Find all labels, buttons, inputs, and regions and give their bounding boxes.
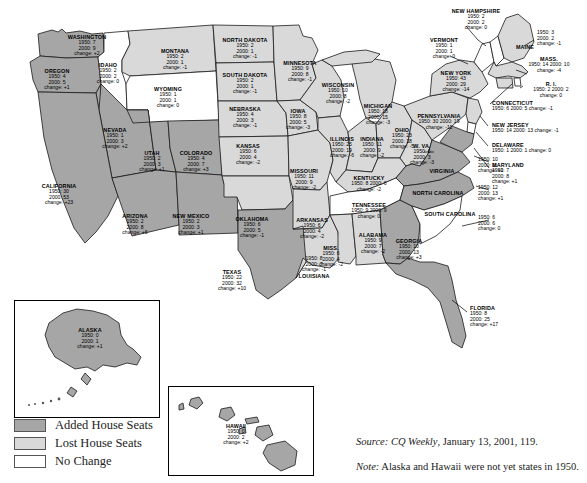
legend-swatch-nochange (14, 455, 46, 468)
alaska-aleutian-2 (67, 387, 77, 397)
statehood-note: Note: Alaska and Hawaii were not yet sta… (356, 461, 579, 472)
state-shape-hawaii[interactable] (179, 397, 297, 471)
state-shape-northdakota[interactable] (213, 25, 274, 63)
state-shape-alaska[interactable] (45, 309, 141, 371)
alaska-aleutian-1 (81, 373, 91, 385)
source-citation-rest: , January 13, 2001, 119. (437, 436, 538, 447)
state-shape-kansas[interactable] (219, 136, 289, 176)
alaska-shape-svg (15, 301, 159, 417)
alaska-inset: ALASKA 1950: 0 2000: 1 change: +1 (14, 300, 160, 418)
note-text: Alaska and Hawaii were not yet states in… (379, 461, 578, 472)
state-shape-rhodeisland[interactable] (514, 78, 521, 86)
us-house-seats-map: WASHINGTON 1950: 7 2000: 9 change: +2 OR… (0, 0, 587, 483)
legend-row-nochange: No Change (14, 452, 153, 470)
legend-label-added: Added House Seats (55, 418, 153, 433)
map-legend: Added House Seats Lost House Seats No Ch… (14, 416, 153, 470)
state-shape-montana[interactable] (122, 25, 216, 76)
source-label: Source: (356, 436, 388, 447)
state-shape-massachusetts[interactable] (488, 62, 528, 78)
legend-label-nochange: No Change (55, 454, 112, 469)
legend-row-lost: Lost House Seats (14, 434, 153, 452)
state-shape-newjersey[interactable] (466, 98, 482, 124)
state-shape-maine[interactable] (498, 14, 534, 62)
source-publication: CQ Weekly (391, 436, 438, 447)
legend-row-added: Added House Seats (14, 416, 153, 434)
hawaii-inset: HAWAII 1950: 0 2000: 2 change: +2 (168, 386, 314, 476)
legend-swatch-lost (14, 437, 46, 450)
note-label: Note: (356, 461, 379, 472)
hawaii-shape-svg (169, 387, 313, 475)
state-shape-indiana[interactable] (346, 118, 378, 172)
source-note: Source: CQ Weekly, January 13, 2001, 119… (356, 436, 538, 447)
legend-label-lost: Lost House Seats (55, 436, 142, 451)
state-shape-oregon[interactable] (30, 56, 101, 93)
state-shape-nebraska[interactable] (218, 101, 288, 137)
state-shape-washington[interactable] (38, 29, 104, 58)
state-shape-colorado[interactable] (168, 120, 222, 175)
state-shape-florida[interactable] (386, 258, 466, 348)
state-shape-arizona[interactable] (112, 170, 179, 236)
state-shape-southdakota[interactable] (216, 62, 277, 101)
state-shape-connecticut[interactable] (496, 78, 513, 88)
legend-swatch-added (14, 419, 46, 432)
alaska-aleutian-dots (28, 398, 60, 406)
